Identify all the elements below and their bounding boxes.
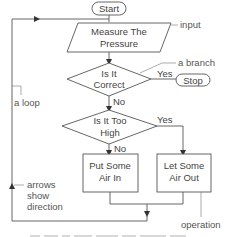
annotation-input: input — [180, 19, 201, 30]
correct-line2: Correct — [93, 79, 125, 90]
toohigh-line2: High — [100, 127, 120, 138]
correct-no-label: No — [113, 96, 125, 107]
stop-terminal: Stop — [176, 74, 210, 86]
annotation-loop: a loop — [14, 97, 40, 108]
correct-line1: Is It — [101, 68, 117, 79]
is-it-too-high-decision: Is It Too High — [62, 110, 157, 144]
stop-label: Stop — [183, 75, 203, 86]
annotation-branch: a branch — [178, 57, 215, 68]
loop-arrowhead-top — [34, 16, 40, 22]
loop-arrowhead-left — [9, 183, 15, 189]
putair-line1: Put Some — [89, 160, 131, 171]
flowchart-canvas: Start Measure The Pressure input Is It C… — [0, 0, 228, 237]
truncated-caption — [30, 235, 186, 237]
is-it-correct-decision: Is It Correct — [67, 63, 151, 96]
letair-line1: Let Some — [164, 160, 205, 171]
annotation-operation: operation — [181, 219, 221, 230]
correct-yes-label: Yes — [157, 68, 173, 79]
toohigh-no-label: No — [114, 143, 126, 154]
measure-line1: Measure The — [91, 26, 147, 37]
annotation-arrows-line3: direction — [27, 201, 63, 212]
toohigh-line1: Is It Too — [93, 115, 126, 126]
measure-line2: Pressure — [100, 38, 138, 49]
putair-line2: Air In — [99, 172, 121, 183]
connector-toohigh-letair — [157, 126, 183, 153]
letair-line2: Air Out — [169, 172, 199, 183]
toohigh-yes-label: Yes — [157, 114, 173, 125]
connector-merge — [110, 192, 183, 204]
put-air-in-operation: Put Some Air In — [83, 154, 138, 192]
start-label: Start — [99, 3, 119, 14]
start-terminal: Start — [92, 2, 126, 15]
measure-pressure-input: Measure The Pressure — [67, 23, 171, 52]
let-air-out-operation: Let Some Air Out — [157, 154, 211, 192]
annotation-arrows-line1: arrows — [27, 179, 56, 190]
loop-pointer — [12, 86, 21, 95]
annotation-arrows-line2: show — [27, 190, 49, 201]
